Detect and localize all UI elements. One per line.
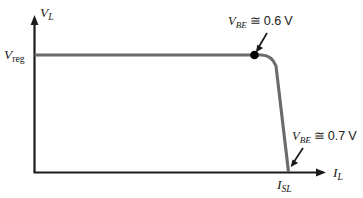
vbe-knee-value: 0.6 [264,14,282,28]
regulator-characteristic-figure: VL IL Vreg ISL VBE≅0.6V VBE≅0.7V [0,0,363,198]
vbe-sc-unit: V [348,129,357,143]
vbe-knee-unit: V [284,14,293,28]
vbe-knee-relation: ≅ [250,14,261,28]
x-axis-label: IL [332,165,343,182]
v-reg-label: Vreg [4,47,25,64]
x-axis-label-sub: L [337,171,343,182]
i-sl-label: ISL [276,177,292,194]
load-voltage-curve [35,55,289,172]
vbe-sc-sub: BE [300,135,312,145]
vbe-sc-relation: ≅ [314,129,325,143]
knee-annotation-arrow-shaft [259,33,268,48]
x-axis-arrowhead [316,168,326,176]
vbe-shortcircuit-annotation: VBE≅0.7V [292,129,357,145]
short-circuit-annotation-arrow-shaft [294,148,304,163]
curve-group [35,55,289,172]
vbe-knee-sub: BE [236,20,248,30]
y-axis-label: VL [40,5,54,22]
vbe-sc-value: 0.7 [328,129,346,143]
vbe-knee-annotation: VBE≅0.6V [228,14,293,30]
i-sl-label-sub: SL [282,183,292,194]
knee-point-marker [250,51,259,60]
chart-canvas: VL IL Vreg ISL VBE≅0.6V VBE≅0.7V [0,0,363,198]
v-reg-label-sub: reg [12,53,25,64]
y-axis-label-sub: L [47,11,53,22]
y-axis-arrowhead [31,15,39,25]
axis-group [31,15,326,177]
